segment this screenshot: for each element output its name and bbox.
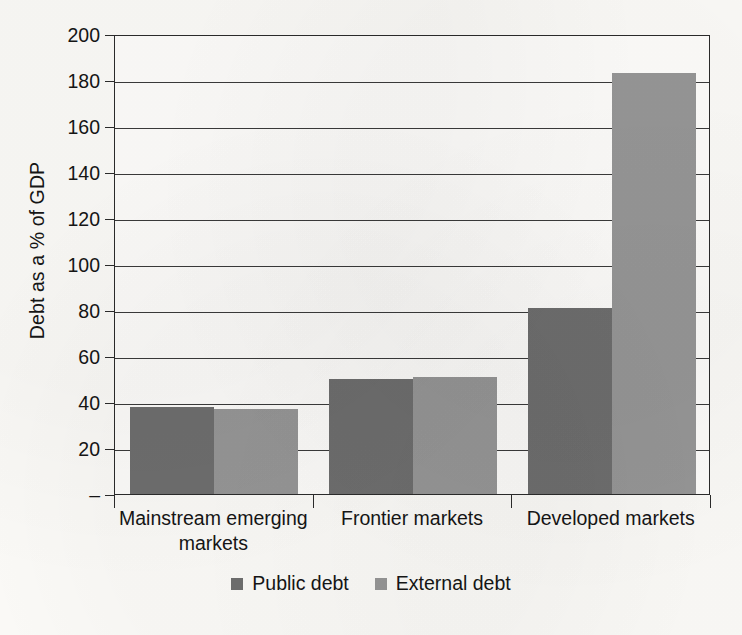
y-axis-tick-label: 80 [18, 300, 100, 323]
y-axis-tick-mark [105, 219, 114, 220]
plot-area [114, 35, 710, 495]
y-axis-tick-mark [105, 35, 114, 36]
y-axis-tick-mark [105, 81, 114, 82]
bar-public-debt-developed-markets [528, 308, 612, 494]
bar-public-debt-frontier-markets [329, 379, 413, 494]
y-axis-tick-label: 120 [18, 208, 100, 231]
y-axis-tick-label: 60 [18, 346, 100, 369]
y-axis-tick-mark [105, 311, 114, 312]
y-axis-tick-label: 180 [18, 70, 100, 93]
y-axis-tick-mark [105, 495, 114, 496]
bar-chart-figure: Debt as a % of GDP –20406080100120140160… [0, 0, 742, 635]
x-axis-category-label: Developed markets [505, 506, 716, 531]
chart-legend: Public debtExternal debt [0, 572, 742, 595]
bar-public-debt-mainstream-emerging-markets [130, 407, 214, 494]
y-axis-tick-label: – [18, 484, 100, 507]
y-axis-tick-mark [105, 127, 114, 128]
y-axis-tick-label: 160 [18, 116, 100, 139]
y-axis-tick-mark [105, 357, 114, 358]
legend-label: Public debt [252, 572, 348, 595]
y-axis-tick-label: 200 [18, 24, 100, 47]
x-axis-category-label: Mainstream emerging markets [108, 506, 319, 556]
x-axis-category-label: Frontier markets [307, 506, 518, 531]
bar-external-debt-mainstream-emerging-markets [214, 409, 298, 494]
bar-external-debt-frontier-markets [413, 377, 497, 494]
legend-item: Public debt [231, 572, 348, 595]
legend-swatch-icon [231, 578, 243, 590]
legend-label: External debt [396, 572, 511, 595]
y-axis-tick-mark [105, 265, 114, 266]
y-axis-tick-mark [105, 449, 114, 450]
y-axis-tick-label: 20 [18, 438, 100, 461]
y-axis-tick-label: 100 [18, 254, 100, 277]
y-axis-tick-labels: –20406080100120140160180200 [0, 0, 100, 635]
legend-item: External debt [375, 572, 511, 595]
y-axis-tick-mark [105, 403, 114, 404]
y-axis-tick-label: 40 [18, 392, 100, 415]
legend-swatch-icon [375, 578, 387, 590]
y-axis-tick-mark [105, 173, 114, 174]
bar-external-debt-developed-markets [612, 73, 696, 494]
y-axis-tick-label: 140 [18, 162, 100, 185]
